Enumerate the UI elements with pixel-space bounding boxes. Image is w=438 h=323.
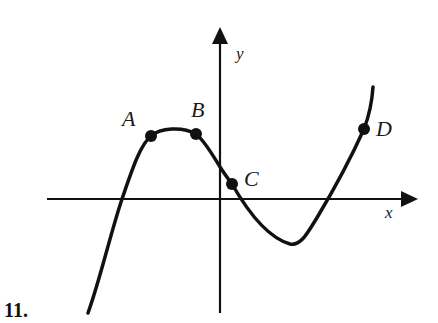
graph-canvas [0, 0, 438, 323]
point-c-label: C [244, 168, 259, 190]
x-axis-label: x [385, 204, 393, 221]
point-c-marker [226, 178, 238, 190]
graph-figure: A B C D y x 11. [0, 0, 438, 323]
point-b-marker [190, 128, 202, 140]
y-axis-arrow-icon [212, 27, 228, 44]
point-b-label: B [191, 99, 204, 121]
point-d-marker [358, 123, 370, 135]
point-a-marker [145, 130, 157, 142]
problem-number: 11. [4, 300, 28, 320]
point-a-label: A [122, 108, 135, 130]
x-axis [47, 191, 418, 207]
y-axis-label: y [236, 45, 244, 62]
point-d-label: D [376, 118, 392, 140]
x-axis-arrow-icon [401, 191, 418, 207]
